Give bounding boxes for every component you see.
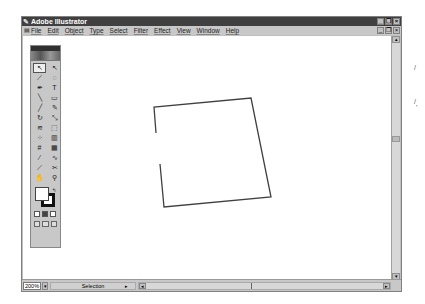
doc-close-button[interactable]: × <box>393 27 400 34</box>
adobe-flower-logo[interactable] <box>31 51 60 61</box>
warp-tool[interactable]: ≋ <box>33 123 46 133</box>
zoom-dropdown-button[interactable]: ▾ <box>42 282 48 290</box>
zoom-tool[interactable]: ⚲ <box>48 173 61 183</box>
scroll-right-button[interactable]: ▸ <box>383 283 390 289</box>
rectangle-tool[interactable]: ▭ <box>48 93 61 103</box>
paintbrush-tool[interactable]: ╱ <box>33 103 46 113</box>
menu-edit[interactable]: Edit <box>47 26 58 35</box>
menu-select[interactable]: Select <box>110 26 128 35</box>
illustrator-app-icon[interactable]: ✎ <box>23 18 30 25</box>
menu-effect[interactable]: Effect <box>154 26 171 35</box>
menu-type[interactable]: Type <box>89 26 103 35</box>
line-tool[interactable]: ╲ <box>33 93 46 103</box>
vertical-scroll-thumb[interactable] <box>392 136 400 142</box>
direct-selection-tool[interactable]: ↖ <box>48 63 61 73</box>
swap-fill-stroke-icon[interactable]: ↰ <box>52 187 56 193</box>
color-mode-button[interactable] <box>34 211 40 217</box>
minimize-button[interactable]: _ <box>377 18 384 25</box>
vertical-scrollbar[interactable]: ▴ ▾ <box>391 36 400 280</box>
toolbox-panel: ↖↖⟋◌✒T╲▭╱✎↻⤡≋⬚⁘▥#▦⁄∿⟋✂✋⚲ ↰ <box>30 45 61 248</box>
offscreen-mark: / <box>414 64 416 71</box>
menu-object[interactable]: Object <box>65 26 84 35</box>
scissors-tool[interactable]: ✂ <box>48 163 61 173</box>
menu-help[interactable]: Help <box>226 26 239 35</box>
tool-grid: ↖↖⟋◌✒T╲▭╱✎↻⤡≋⬚⁘▥#▦⁄∿⟋✂✋⚲ <box>31 61 60 183</box>
document-icon[interactable]: ▤ <box>24 26 31 35</box>
menu-file[interactable]: File <box>31 26 41 35</box>
lasso-tool[interactable]: ◌ <box>48 73 61 83</box>
scale-tool[interactable]: ⤡ <box>48 113 61 123</box>
window-title: Adobe Illustrator <box>31 18 87 25</box>
menu-filter[interactable]: Filter <box>134 26 148 35</box>
free-transform-tool[interactable]: ⬚ <box>48 123 61 133</box>
eyedropper-tool[interactable]: ⁄ <box>33 153 46 163</box>
pen-tool[interactable]: ✒ <box>33 83 46 93</box>
title-bar[interactable]: ✎ Adobe Illustrator _ ❐ × <box>22 17 401 26</box>
screen-mode-buttons <box>31 219 60 229</box>
type-tool[interactable]: T <box>48 83 61 93</box>
status-display[interactable]: Selection <box>50 282 136 290</box>
restore-button[interactable]: ❐ <box>385 18 392 25</box>
selection-tool[interactable]: ↖ <box>33 63 46 73</box>
gradient-mode-button[interactable] <box>42 211 48 217</box>
symbol-sprayer-tool[interactable]: ⁘ <box>33 133 46 143</box>
zoom-level-field[interactable]: 200% <box>23 282 41 290</box>
status-menu-arrow[interactable]: ▸ <box>125 283 128 289</box>
magic-wand-tool[interactable]: ⟋ <box>33 73 46 83</box>
menu-window[interactable]: Window <box>197 26 220 35</box>
offscreen-mark: ' <box>416 104 417 111</box>
scroll-up-button[interactable]: ▴ <box>392 36 400 43</box>
full-screen-button[interactable] <box>51 221 57 227</box>
full-screen-menu-button[interactable] <box>42 221 48 227</box>
none-mode-button[interactable] <box>50 211 56 217</box>
artboard-canvas[interactable] <box>23 36 392 279</box>
menu-bar: ▤ File Edit Object Type Select Filter Ef… <box>22 26 401 35</box>
standard-screen-button[interactable] <box>34 221 40 227</box>
doc-minimize-button[interactable]: _ <box>377 27 384 34</box>
slice-tool[interactable]: ⟋ <box>33 163 46 173</box>
fill-swatch[interactable] <box>35 187 49 201</box>
mesh-tool[interactable]: # <box>33 143 46 153</box>
horizontal-scrollbar[interactable]: ◂ ▸ <box>138 282 391 290</box>
status-text: Selection <box>82 283 105 289</box>
scroll-left-button[interactable]: ◂ <box>139 283 146 289</box>
gradient-tool[interactable]: ▦ <box>48 143 61 153</box>
illustrator-window: ✎ Adobe Illustrator _ ❐ × ▤ File Edit Ob… <box>21 16 402 292</box>
rotate-tool[interactable]: ↻ <box>33 113 46 123</box>
pencil-tool[interactable]: ✎ <box>48 103 61 113</box>
color-mode-buttons <box>31 209 60 219</box>
fill-stroke-area: ↰ <box>33 187 58 209</box>
horizontal-scroll-thumb[interactable] <box>249 283 252 289</box>
menu-view[interactable]: View <box>177 26 191 35</box>
doc-restore-button[interactable]: ❐ <box>385 27 392 34</box>
status-bar: 200% ▾ Selection ▸ ◂ ▸ <box>22 279 401 291</box>
close-button[interactable]: × <box>393 18 400 25</box>
hand-tool[interactable]: ✋ <box>33 173 46 183</box>
graph-tool[interactable]: ▥ <box>48 133 61 143</box>
blend-tool[interactable]: ∿ <box>48 153 61 163</box>
